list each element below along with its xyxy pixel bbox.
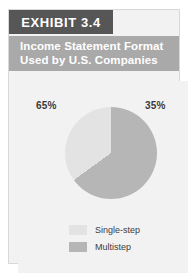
exhibit-tab-label: EXHIBIT 3.4 — [21, 15, 101, 30]
exhibit-number-tab: EXHIBIT 3.4 — [9, 10, 113, 34]
chart-plot-area: 65% 35% Single-step Multistep — [18, 81, 188, 273]
exhibit-title-line-1: Income Statement Format — [20, 40, 179, 54]
pie-chart-container — [65, 107, 157, 199]
legend-item-multistep: Multistep — [18, 238, 188, 255]
legend-item-single-step: Single-step — [18, 221, 188, 238]
exhibit-title-line-2: Used by U.S. Companies — [20, 54, 179, 68]
pie-chart — [65, 107, 157, 199]
pie-slice-label-multistep: 65% — [36, 100, 57, 111]
legend-label-single-step: Single-step — [95, 225, 140, 235]
legend-swatch-single-step — [69, 225, 87, 235]
exhibit-title-band: Income Statement Format Used by U.S. Com… — [9, 36, 179, 71]
chart-legend: Single-step Multistep — [18, 221, 188, 255]
legend-label-multistep: Multistep — [95, 242, 131, 252]
pie-slice-label-single-step: 35% — [145, 100, 166, 111]
legend-swatch-multistep — [69, 242, 87, 252]
